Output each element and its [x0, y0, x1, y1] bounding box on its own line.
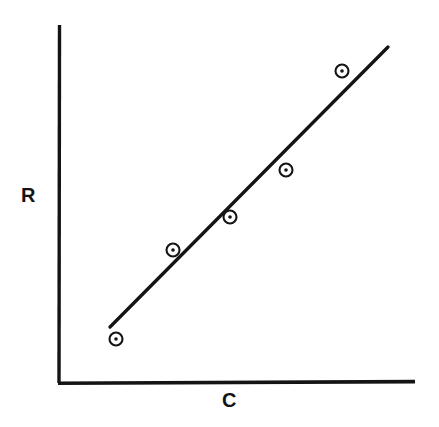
- data-point: [336, 65, 349, 78]
- y-axis-line: [59, 25, 60, 383]
- data-point: [280, 164, 293, 177]
- plot-area: [0, 0, 439, 427]
- x-axis-line: [58, 382, 415, 384]
- y-axis-label: R: [21, 185, 35, 205]
- data-point: [167, 244, 180, 257]
- data-point: [224, 211, 237, 224]
- data-point: [110, 333, 123, 346]
- x-axis-label: C: [222, 390, 236, 410]
- figure-canvas: R C: [0, 0, 439, 427]
- trend-line: [110, 47, 388, 327]
